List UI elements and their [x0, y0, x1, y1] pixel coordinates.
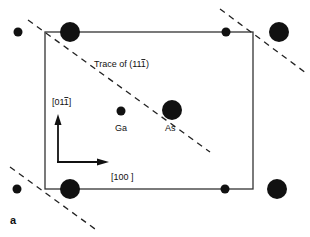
as-atom — [162, 100, 182, 120]
ga-atom — [117, 107, 126, 116]
as-atom — [269, 22, 289, 42]
as-atom — [60, 179, 80, 199]
direction-horizontal-label: [100 ] — [111, 172, 134, 182]
ga-atom — [221, 185, 230, 194]
ga-atom — [222, 28, 231, 37]
as-label: As — [165, 123, 176, 133]
trace-label: Trace of (111) — [94, 59, 149, 69]
ga-atom — [14, 28, 23, 37]
vertical-arrowhead-icon — [55, 114, 62, 125]
ga-atom — [13, 185, 22, 194]
trace-line-upper-right — [220, 9, 306, 73]
direction-vertical-label: [011] — [52, 97, 71, 107]
as-atom — [60, 22, 80, 42]
ga-label: Ga — [115, 123, 127, 133]
panel-label: a — [10, 214, 17, 226]
unit-cell-diagram: Trace of (111) [011] [100 ] Ga As a — [0, 0, 310, 237]
as-atom — [267, 179, 287, 199]
horizontal-arrowhead-icon — [97, 159, 109, 166]
trace-line-lower-left — [10, 167, 95, 229]
